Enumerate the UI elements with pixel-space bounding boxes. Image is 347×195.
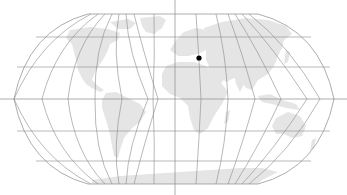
land-south-america [102,92,146,158]
land-europe [170,28,210,56]
land-greenland [140,16,166,34]
world-map [0,0,347,195]
land-indonesia [258,94,300,110]
land-antarctica [92,168,278,184]
location-marker-dot[interactable] [196,55,201,60]
land-japan [284,50,290,64]
land-arctic-islands [110,19,136,29]
land-australia [272,112,306,138]
land-india [234,72,246,92]
